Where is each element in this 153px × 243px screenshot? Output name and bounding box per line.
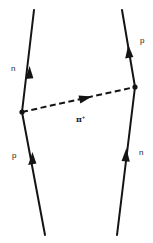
left-bottom-label: p: [12, 152, 16, 160]
arrow-up-icon: [122, 148, 130, 162]
arrow-right-icon: [79, 96, 93, 104]
left-nucleon-line: [19, 10, 45, 235]
right-bottom-label: n: [139, 149, 143, 157]
left-line-upper-segment: [22, 10, 34, 112]
right-top-label: p: [140, 37, 144, 45]
right-nucleon-line: [117, 10, 138, 235]
arrow-up-icon: [125, 45, 133, 58]
pion-exchange-line: [22, 87, 135, 112]
left-line-lower-segment: [22, 112, 45, 235]
pion-charge: +: [82, 114, 86, 120]
pion-dashed-line: [22, 87, 135, 112]
feynman-diagram: n p p n π+: [0, 0, 153, 243]
left-top-label: n: [11, 65, 15, 73]
pion-label: π+: [76, 114, 85, 123]
